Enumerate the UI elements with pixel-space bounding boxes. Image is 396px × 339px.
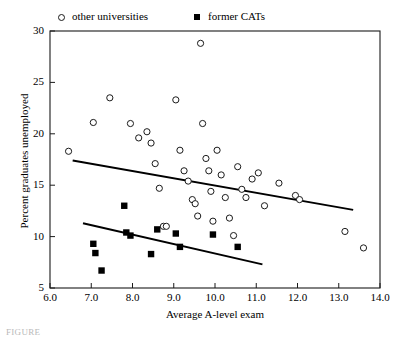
x-tick-label: 11.0 [238, 292, 274, 303]
data-point-square [92, 250, 98, 256]
data-points-former-cats [90, 203, 241, 274]
data-point-circle [156, 185, 162, 191]
x-tick-label: 12.0 [280, 292, 316, 303]
data-point-circle [222, 194, 228, 200]
trend-lines [73, 161, 354, 265]
x-tick-label: 10.0 [197, 292, 233, 303]
other-universities-trend [73, 161, 354, 210]
x-tick-label: 9.0 [156, 292, 192, 303]
x-axis-ticks [50, 283, 380, 288]
data-point-square [121, 203, 127, 209]
data-point-circle [107, 95, 113, 101]
y-axis-title: Percent graduates unemployed [18, 61, 30, 261]
data-point-circle [276, 180, 282, 186]
data-point-circle [206, 168, 212, 174]
data-point-square [154, 226, 160, 232]
data-point-square [234, 244, 240, 250]
data-point-circle [296, 196, 302, 202]
data-point-circle [261, 203, 267, 209]
scatter-plot-figure: other universities former CATs 510152025… [0, 0, 396, 339]
data-point-circle [148, 140, 154, 146]
data-point-circle [226, 215, 232, 221]
data-point-circle [90, 119, 96, 125]
data-point-circle [200, 120, 206, 126]
x-tick-label: 13.0 [321, 292, 357, 303]
data-point-circle [239, 186, 245, 192]
data-point-circle [197, 40, 203, 46]
data-point-circle [144, 129, 150, 135]
data-point-circle [255, 170, 261, 176]
x-tick-label: 8.0 [115, 292, 151, 303]
data-point-circle [173, 97, 179, 103]
open-circle-icon [56, 11, 67, 22]
legend-label-other-universities: other universities [72, 10, 148, 22]
data-point-circle [177, 147, 183, 153]
plot-border [50, 31, 380, 288]
data-point-circle [249, 176, 255, 182]
data-points-other-universities [65, 40, 366, 251]
data-point-circle [185, 178, 191, 184]
data-point-circle [203, 155, 209, 161]
legend-item-former-cats: former CATs [192, 10, 265, 22]
filled-square-icon [192, 11, 203, 22]
data-point-square [127, 232, 133, 238]
data-point-square [148, 251, 154, 257]
data-point-circle [360, 245, 366, 251]
data-point-circle [218, 172, 224, 178]
x-tick-label: 14.0 [362, 292, 396, 303]
data-point-circle [342, 228, 348, 234]
axes-frame [50, 31, 380, 288]
data-point-square [90, 241, 96, 247]
data-point-circle [136, 135, 142, 141]
x-axis-title: Average A-level exam [50, 308, 380, 320]
data-point-circle [65, 148, 71, 154]
data-point-circle [163, 223, 169, 229]
data-point-circle [235, 164, 241, 170]
data-point-circle [210, 218, 216, 224]
legend-item-other-universities: other universities [56, 10, 148, 22]
x-tick-label: 7.0 [73, 292, 109, 303]
legend-label-former-cats: former CATs [208, 10, 265, 22]
data-point-circle [230, 232, 236, 238]
x-tick-label: 6.0 [32, 292, 68, 303]
data-point-circle [127, 120, 133, 126]
data-point-square [177, 244, 183, 250]
data-point-square [173, 230, 179, 236]
data-point-square [98, 267, 104, 273]
data-point-square [210, 231, 216, 237]
data-point-circle [208, 188, 214, 194]
chart-legend: other universities former CATs [50, 6, 380, 26]
data-point-circle [214, 147, 220, 153]
y-axis-ticks [50, 31, 55, 288]
data-point-circle [181, 168, 187, 174]
y-tick-label: 30 [16, 25, 44, 36]
plot-canvas [0, 0, 396, 339]
data-point-circle [192, 201, 198, 207]
figure-caption: FIGURE [6, 327, 40, 337]
data-point-circle [195, 213, 201, 219]
data-point-circle [152, 161, 158, 167]
data-point-circle [243, 194, 249, 200]
